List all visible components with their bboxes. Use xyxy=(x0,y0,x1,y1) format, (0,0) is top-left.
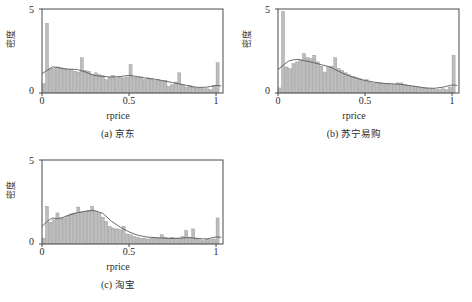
histogram-bar xyxy=(344,73,347,93)
histogram-bar xyxy=(167,238,170,244)
panel-caption-text-a: 京东 xyxy=(115,128,135,139)
x-tick-1-c: 0.5 xyxy=(116,246,142,257)
histogram-bar xyxy=(351,76,354,93)
histogram-bar xyxy=(66,69,69,93)
histogram-bar xyxy=(285,67,288,93)
histogram-bar xyxy=(108,77,111,93)
histogram-bar xyxy=(309,59,312,93)
histogram-bar xyxy=(87,71,90,93)
histogram-bar xyxy=(209,90,212,93)
histogram-bar xyxy=(442,89,445,93)
histogram-bar xyxy=(188,237,191,244)
x-axis-label-a: rprice xyxy=(0,110,236,121)
histogram-bar xyxy=(216,63,219,93)
histogram-bar xyxy=(139,238,142,244)
histogram-bar xyxy=(146,239,149,244)
histogram-svg-b xyxy=(236,0,472,104)
histogram-bar xyxy=(167,86,170,93)
histogram-bar xyxy=(206,239,209,244)
histogram-bar xyxy=(84,70,87,93)
histogram-bar xyxy=(129,235,132,244)
histogram-bar xyxy=(428,89,431,93)
histogram-bar xyxy=(369,82,372,93)
histogram-bar xyxy=(52,220,55,244)
histogram-svg-a xyxy=(0,0,236,104)
histogram-bar xyxy=(295,62,298,93)
histogram-bar xyxy=(112,228,115,244)
histogram-bar xyxy=(178,73,181,93)
panel-caption-text-b: 苏宁易购 xyxy=(341,128,381,139)
x-tick-1-a: 0.5 xyxy=(116,95,142,106)
histogram-bar xyxy=(133,236,136,244)
histogram-bar xyxy=(348,75,351,93)
histogram-bar xyxy=(122,78,125,93)
histogram-bar xyxy=(153,80,156,93)
histogram-bar xyxy=(424,88,427,93)
plot-area-c: 密度 5 0 0 0.5 1 xyxy=(0,151,236,255)
histogram-bar xyxy=(160,81,163,93)
histogram-bar xyxy=(56,67,59,93)
histogram-bar xyxy=(288,69,291,93)
histogram-bar xyxy=(119,77,122,93)
histogram-bar xyxy=(150,79,153,93)
histogram-bar xyxy=(59,68,62,93)
histogram-bar xyxy=(80,58,83,93)
histogram-bar xyxy=(382,84,385,93)
histogram-bar xyxy=(52,69,55,93)
histogram-bar xyxy=(320,66,323,93)
histogram-bar xyxy=(119,230,122,244)
histogram-bar xyxy=(108,226,111,244)
histogram-bar xyxy=(87,210,90,244)
histogram-bar xyxy=(84,211,87,244)
histogram-bar xyxy=(206,89,209,93)
histogram-bar xyxy=(133,77,136,93)
histogram-bar xyxy=(438,90,441,93)
panel-caption-b: (b) 苏宁易购 xyxy=(236,126,472,140)
histogram-bar xyxy=(98,213,101,244)
histogram-bar xyxy=(185,87,188,93)
histogram-bar xyxy=(449,87,452,93)
histogram-bar xyxy=(216,218,219,244)
histogram-bar xyxy=(209,240,212,244)
histogram-bar xyxy=(302,54,305,93)
histogram-bar xyxy=(94,211,97,244)
histogram-bar xyxy=(70,69,73,93)
histogram-bar xyxy=(80,212,83,244)
histogram-bar xyxy=(171,85,174,93)
histogram-bar xyxy=(306,58,309,93)
x-tick-0-a: 0 xyxy=(29,95,55,106)
histogram-bar xyxy=(327,67,330,93)
panel-caption-index-a: (a) xyxy=(101,128,112,139)
x-tick-2-a: 1 xyxy=(203,95,229,106)
histogram-bar xyxy=(66,215,69,244)
histogram-bar xyxy=(213,85,216,93)
histogram-bar xyxy=(431,89,434,93)
histogram-bar xyxy=(45,23,48,93)
histogram-bar xyxy=(136,237,139,244)
histogram-bar xyxy=(323,72,326,93)
histogram-bar xyxy=(199,88,202,93)
histogram-bar xyxy=(98,75,101,93)
histogram-bar xyxy=(202,89,205,93)
histogram-bar xyxy=(213,239,216,244)
histogram-bar xyxy=(202,241,205,244)
histogram-bar xyxy=(157,80,160,93)
histogram-bar xyxy=(56,213,59,244)
panel-caption-c: (c) 淘宝 xyxy=(0,277,236,291)
histogram-bar xyxy=(445,90,448,93)
histogram-bar xyxy=(389,85,392,93)
panel-caption-index-c: (c) xyxy=(101,279,112,290)
histogram-bar xyxy=(150,238,153,244)
histogram-bar xyxy=(199,240,202,244)
x-tick-0-c: 0 xyxy=(29,246,55,257)
chart-panel-c: 密度 5 0 0 0.5 1 rprice (c) 淘宝 xyxy=(0,151,236,302)
histogram-bar xyxy=(115,78,118,93)
histogram-bar xyxy=(292,64,295,93)
plot-area-b: 密度 5 0 0 0.5 1 xyxy=(236,0,472,104)
histogram-bar xyxy=(146,78,149,93)
x-axis-label-b: rprice xyxy=(236,110,472,121)
histogram-bar xyxy=(105,80,108,93)
histogram-bar xyxy=(73,213,76,244)
histogram-bar xyxy=(379,83,382,93)
histogram-bar xyxy=(115,229,118,244)
